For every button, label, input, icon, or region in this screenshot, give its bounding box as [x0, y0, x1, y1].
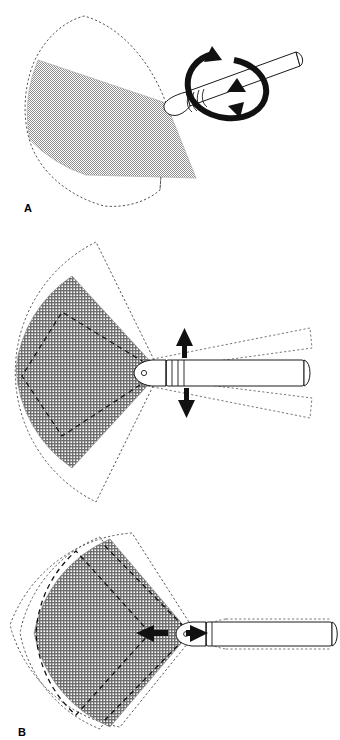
panel-a: A: [0, 0, 340, 230]
panel-label-a: A: [24, 203, 32, 214]
panel-c: C: [0, 515, 340, 740]
panel-b-illustration: [0, 230, 340, 515]
panel-c-illustration: [0, 515, 340, 740]
figure-root: A: [0, 0, 340, 740]
scan-sector-a: [27, 60, 196, 178]
probe-b: [134, 360, 310, 386]
panel-b: B: [0, 230, 340, 515]
tilt-arrow-down-b: [178, 388, 195, 418]
panel-a-illustration: [0, 0, 340, 230]
